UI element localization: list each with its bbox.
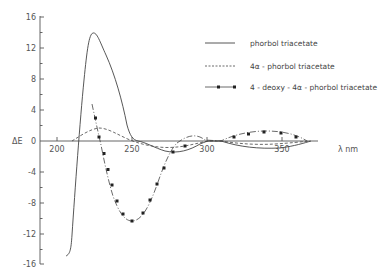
svg-text:200: 200 bbox=[49, 145, 64, 154]
svg-text:-8: -8 bbox=[28, 199, 36, 208]
svg-text:300: 300 bbox=[199, 145, 214, 154]
series-4-deoxy-markers bbox=[94, 117, 298, 223]
svg-text:4α - phorbol triacetate: 4α - phorbol triacetate bbox=[250, 62, 335, 71]
y-tick-labels: 16 12 8 4 0 -4 -8 -12 -16 bbox=[23, 13, 36, 269]
svg-text:-4: -4 bbox=[28, 168, 36, 177]
series-4-deoxy-4alpha-phorbol-triacetate bbox=[92, 104, 307, 221]
svg-text:350: 350 bbox=[274, 145, 289, 154]
svg-text:phorbol triacetate: phorbol triacetate bbox=[250, 39, 318, 48]
legend-item-4-deoxy-4alpha-phorbol-triacetate: 4 - deoxy - 4α - phorbol triacetate bbox=[205, 83, 377, 92]
y-axis-label: ΔE bbox=[12, 137, 23, 146]
svg-text:-16: -16 bbox=[23, 260, 36, 269]
cd-spectrum-chart: 16 12 8 4 0 -4 -8 -12 -16 ΔE 200 250 300… bbox=[0, 0, 382, 280]
svg-text:4 - deoxy - 4α - phorbol triac: 4 - deoxy - 4α - phorbol triacetate bbox=[250, 83, 377, 92]
legend-item-4alpha-phorbol-triacetate: 4α - phorbol triacetate bbox=[205, 62, 335, 71]
svg-text:0: 0 bbox=[31, 137, 36, 146]
svg-text:4: 4 bbox=[31, 106, 36, 115]
legend: phorbol triacetate 4α - phorbol triaceta… bbox=[205, 39, 377, 92]
svg-text:16: 16 bbox=[26, 13, 36, 22]
svg-text:12: 12 bbox=[26, 44, 36, 53]
x-tick-labels: 200 250 300 350 bbox=[49, 145, 289, 154]
svg-text:8: 8 bbox=[31, 75, 36, 84]
x-axis-label: λ nm bbox=[338, 145, 358, 154]
svg-text:-12: -12 bbox=[23, 230, 36, 239]
svg-text:250: 250 bbox=[124, 145, 139, 154]
y-ticks bbox=[40, 17, 44, 264]
x-ticks bbox=[57, 137, 282, 141]
legend-item-phorbol-triacetate: phorbol triacetate bbox=[205, 39, 318, 48]
